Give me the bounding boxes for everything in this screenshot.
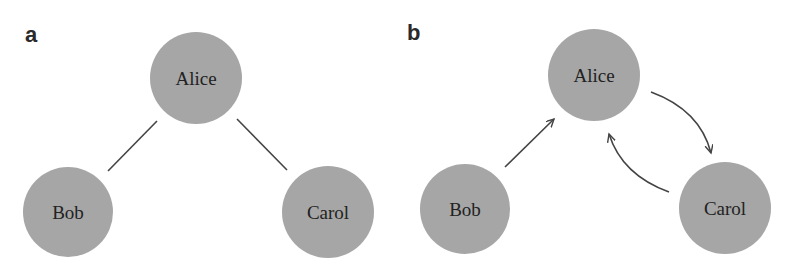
edge-alice-carol: [237, 119, 287, 170]
node-carol: Carol: [282, 166, 374, 258]
node-alice: Alice: [150, 32, 242, 124]
node-alice: Alice: [548, 29, 640, 121]
panel-a: a Alice Bob Carol: [23, 22, 374, 258]
node-alice-label: Alice: [573, 65, 614, 86]
node-alice-label: Alice: [175, 68, 216, 89]
panel-a-label: a: [25, 22, 38, 47]
node-bob-label: Bob: [449, 199, 481, 220]
node-bob: Bob: [23, 167, 113, 257]
network-diagram: a Alice Bob Carol b Alice Bob: [0, 0, 800, 268]
edge-alice-bob: [108, 121, 157, 171]
edge-carol-to-alice: [609, 134, 669, 192]
edge-alice-to-carol: [651, 92, 711, 153]
node-carol-label: Carol: [307, 202, 349, 223]
node-bob: Bob: [420, 164, 510, 254]
node-carol: Carol: [679, 162, 771, 254]
edge-bob-to-alice: [505, 119, 554, 167]
node-carol-label: Carol: [704, 198, 746, 219]
panel-b-label: b: [407, 20, 420, 45]
panel-b: b Alice Bob Carol: [407, 20, 771, 254]
node-bob-label: Bob: [52, 202, 84, 223]
